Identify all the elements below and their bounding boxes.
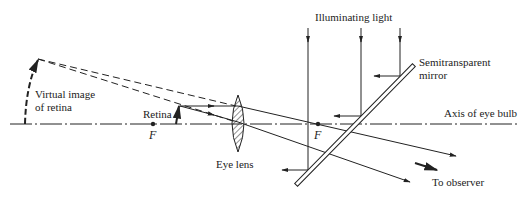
illuminating-light-label: Illuminating light: [315, 11, 392, 23]
to-observer-label: To observer: [432, 176, 484, 188]
retina-label: Retina: [143, 108, 172, 120]
focal-point-right-label: F: [314, 129, 321, 141]
mirror-label-line1: Semitransparent: [419, 56, 490, 68]
semitransparent-mirror: [295, 64, 416, 187]
axis-label: Axis of eye bulb: [444, 107, 517, 119]
ray-refracted-lower: [238, 122, 410, 182]
to-observer-arrow: [415, 163, 437, 170]
virtual-image-label-line1: Virtual image: [35, 88, 95, 100]
mirror-label-line2: mirror: [419, 69, 447, 81]
eye-lens-label: Eye lens: [216, 158, 254, 170]
retina-arrow: [176, 106, 179, 124]
focal-point-left-label: F: [149, 129, 156, 141]
eye-optics-diagram: Illuminating light Semitransparent mirro…: [0, 0, 528, 199]
virtual-image-label-line2: of retina: [35, 101, 72, 113]
ray-through-center: [180, 106, 214, 115]
focal-point-left: [151, 122, 155, 126]
focal-point-right: [316, 122, 320, 126]
